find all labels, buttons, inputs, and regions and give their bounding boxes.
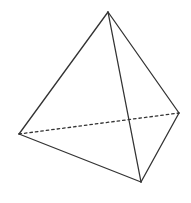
edge-apex-left	[19, 12, 108, 134]
edge-left-bottom	[19, 134, 141, 182]
tetrahedron-svg	[0, 0, 191, 203]
tetrahedron-diagram	[0, 0, 191, 203]
edge-apex-bottom	[108, 12, 141, 182]
edge-left-right-hidden	[19, 113, 179, 134]
edge-right-bottom	[141, 113, 179, 182]
edge-apex-right	[108, 12, 179, 113]
edges-group	[19, 12, 179, 182]
